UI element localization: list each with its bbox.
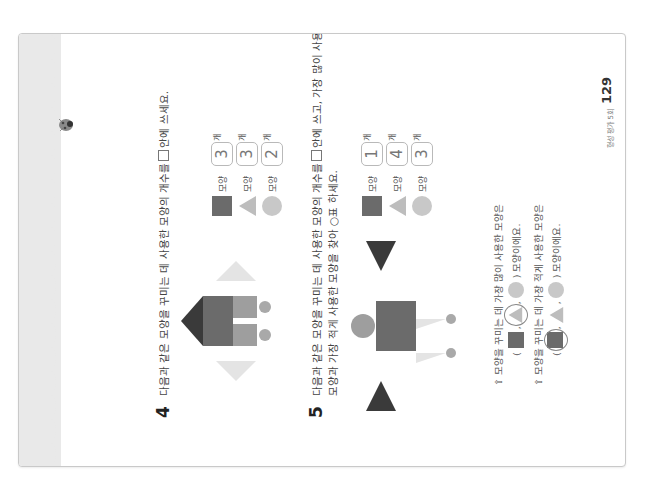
unit-label: 개 [411,134,422,141]
shape-label: 모양 [266,176,279,192]
question-4-number: 4 [153,406,173,418]
separator: , [511,326,522,329]
answer-suffix: 모양이에요. [509,223,523,271]
question-5-text-line2: 모양과 가장 적게 사용한 모양을 찾아 ○표 하세요. [327,170,339,396]
question-5-text-part1: 다음과 같은 모양을 꾸미는 데 사용한 모양의 개수를 [311,163,323,396]
q5-count-circle: 모양 3 개 [411,134,433,216]
answer-box[interactable]: 4 [386,142,408,166]
triangle-option-icon [507,307,523,323]
sub-answer-most-used: ( , , ) 모양이에요. [507,223,525,356]
triangle-option-circled[interactable] [507,307,525,323]
shape-label: 모양 [366,176,379,192]
blank-box-icon [311,150,322,161]
square-shape-icon [212,196,232,216]
shape-label: 모양 [391,176,404,192]
shape-label: 모양 [416,176,429,192]
q5-count-triangle: 모양 4 개 [386,134,408,216]
q4-count-triangle: 모양 3 개 [236,134,258,216]
square-option-icon[interactable] [508,332,524,348]
separator: , [551,301,562,304]
circle-option-icon[interactable] [508,282,524,298]
question-5-prompt: 다음과 같은 모양을 꾸미는 데 사용한 모양의 개수를안에 쓰고, 가장 많이… [309,33,342,396]
square-option-icon [547,332,563,348]
question-4-text-part1: 다음과 같은 모양을 꾸미는 데 사용한 모양의 개수를 [158,163,170,396]
triangle-shape-icon [237,196,257,216]
unit-label: 개 [211,134,222,141]
sub-question-most-used: ⇧ 모양을 꾸미는 데 가장 많이 사용한 모양은 [491,204,505,386]
answer-box[interactable]: 3 [236,142,258,166]
blank-box-icon [158,150,169,161]
question-4-text-part2: 안에 쓰세요. [158,91,170,148]
question-5-text-part2: 안에 쓰고, 가장 많이 사용한 [311,33,323,148]
square-shape-icon [362,196,382,216]
triangle-option-icon[interactable] [548,307,564,323]
shape-label: 모양 [216,176,229,192]
decorative-wave-strip [19,34,61,466]
question-5-figure [351,241,461,411]
answer-box[interactable]: 3 [211,142,233,166]
open-paren: ( [511,352,522,356]
circle-shape-icon [262,196,282,216]
sub-answer-least-used: ( , , ) 모양이에요. [547,223,565,356]
q4-count-circle: 모양 2 개 [261,134,283,216]
circle-shape-icon [412,196,432,216]
close-paren: ) [511,275,522,279]
close-paren: ) [551,275,562,279]
answer-box[interactable]: 3 [411,142,433,166]
question-4-rocket-figure [181,261,291,381]
worksheet-page: 4 다음과 같은 모양을 꾸미는 데 사용한 모양의 개수를안에 쓰세요. 모양… [18,33,626,467]
unit-label: 개 [361,134,372,141]
unit-label: 개 [386,134,397,141]
question-4-prompt: 다음과 같은 모양을 꾸미는 데 사용한 모양의 개수를안에 쓰세요. [156,91,172,396]
shape-label: 모양 [241,176,254,192]
sub-question-least-used: ⇧ 모양을 꾸미는 데 가장 적게 사용한 모양은 [531,204,545,386]
answer-suffix: 모양이에요. [549,223,563,271]
rotated-content: 4 다음과 같은 모양을 꾸미는 데 사용한 모양의 개수를안에 쓰세요. 모양… [61,34,625,466]
open-paren: ( [551,352,562,356]
footer-label: 형성 평가 5회 [605,109,615,148]
page-number: 129 [599,77,614,104]
answer-box[interactable]: 1 [361,142,383,166]
triangle-shape-icon [387,196,407,216]
unit-label: 개 [261,134,272,141]
square-option-circled[interactable] [547,332,565,348]
unit-label: 개 [236,134,247,141]
question-5-number: 5 [306,406,326,418]
circle-option-icon[interactable] [548,282,564,298]
answer-box[interactable]: 2 [261,142,283,166]
q4-count-square: 모양 3 개 [211,134,233,216]
q5-count-square: 모양 1 개 [361,134,383,216]
